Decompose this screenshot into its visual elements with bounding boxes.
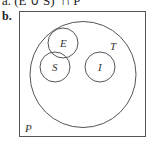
set-t-circle bbox=[30, 22, 136, 128]
set-e-label: E bbox=[59, 37, 67, 49]
set-s-label: S bbox=[52, 61, 58, 73]
set-i-label: I bbox=[97, 61, 103, 73]
set-t-label: T bbox=[110, 40, 117, 52]
universe-p-rect bbox=[20, 12, 146, 137]
venn-diagram: E S I T P bbox=[0, 0, 152, 142]
universe-p-label: P bbox=[24, 122, 32, 134]
